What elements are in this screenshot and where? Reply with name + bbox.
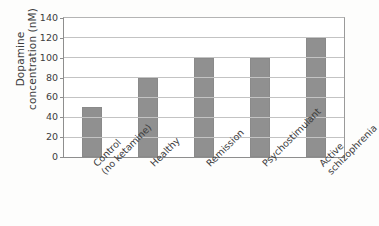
x-axis-label: Activeschizophrenia — [289, 159, 345, 226]
gridline — [64, 37, 344, 38]
gridline — [64, 57, 344, 58]
y-axis-tick-label: 140 — [40, 13, 58, 23]
y-axis-tick-mark — [60, 38, 64, 39]
x-axis-label: Healthy — [120, 159, 176, 226]
bar[interactable] — [194, 58, 214, 157]
y-axis-tick-label: 20 — [46, 132, 58, 142]
y-axis-title-line-1: Dopamine — [14, 32, 26, 87]
y-axis-tick-mark — [60, 58, 64, 59]
bar[interactable] — [250, 58, 270, 157]
y-axis-tick-label: 60 — [46, 92, 58, 102]
y-axis-tick-mark — [60, 18, 64, 19]
y-axis-tick-mark — [60, 137, 64, 138]
y-axis-tick-label: 120 — [40, 33, 58, 43]
y-axis-tick-label: 0 — [52, 152, 58, 162]
gridline — [64, 137, 344, 138]
y-axis-tick-mark — [60, 78, 64, 79]
x-axis-label: Control(no ketamine) — [63, 159, 119, 226]
y-axis-tick-mark — [60, 157, 64, 158]
y-axis-tick-label: 40 — [46, 112, 58, 122]
gridline — [64, 97, 344, 98]
y-axis-tick-label: 80 — [46, 73, 58, 83]
x-axis-labels: Control(no ketamine)HealthyRemissionPsyc… — [63, 159, 345, 226]
y-axis-tick-label: 100 — [40, 53, 58, 63]
x-axis-label: Psychostimulant — [232, 159, 288, 226]
y-axis-tick-mark — [60, 97, 64, 98]
plot-area: 020406080100120140 — [63, 17, 345, 158]
gridline — [64, 77, 344, 78]
y-axis-title: Dopamine concentration (nM) — [9, 0, 43, 129]
x-axis-label: Remission — [176, 159, 232, 226]
y-axis-tick-mark — [60, 117, 64, 118]
y-axis-title-line-2: concentration (nM) — [26, 8, 38, 110]
bar[interactable] — [82, 107, 102, 157]
